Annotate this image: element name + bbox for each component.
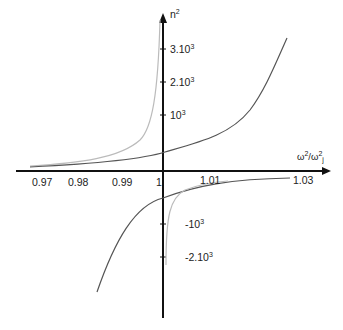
y-tick-label: -103 bbox=[185, 218, 204, 230]
x-axis-arrow-icon bbox=[322, 167, 331, 175]
x-tick-label: 0.99 bbox=[112, 177, 132, 188]
x-axis-label: ω2/ω2j bbox=[297, 150, 324, 163]
dark-curve-negative bbox=[97, 178, 290, 292]
y-tick-label: 2.103 bbox=[170, 76, 194, 88]
light-curve-positive bbox=[30, 20, 160, 166]
y-axis-label: n2 bbox=[170, 8, 180, 20]
x-tick-label: 0.98 bbox=[68, 177, 88, 188]
y-tick-label: -2.103 bbox=[185, 251, 213, 263]
x-tick-label: 0.97 bbox=[32, 177, 52, 188]
y-tick-label: 3.103 bbox=[170, 43, 194, 55]
y-tick-label: 103 bbox=[170, 109, 186, 121]
x-tick-label: 1 bbox=[156, 177, 162, 188]
x-tick-label: 1.01 bbox=[200, 175, 220, 186]
x-tick-label: 1.03 bbox=[293, 175, 313, 186]
